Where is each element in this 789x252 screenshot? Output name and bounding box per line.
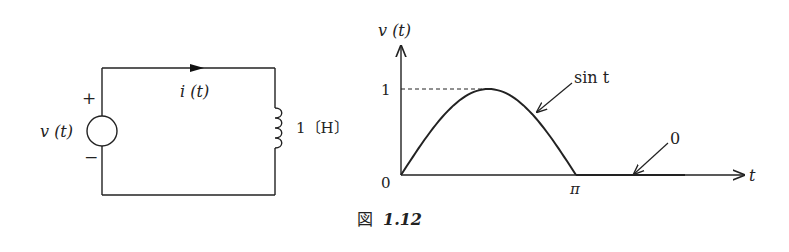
origin-label: 0: [381, 174, 391, 192]
current-label: i (t): [180, 82, 209, 101]
zero-annotation-arrow-icon: [634, 143, 668, 174]
x-tick-pi: π: [569, 180, 581, 198]
current-arrow-icon: [190, 64, 204, 72]
zero-annotation: 0: [670, 129, 680, 148]
figure-caption-prefix: 図: [357, 210, 373, 229]
sin-annotation-arrow-icon: [537, 83, 572, 112]
figure-canvas: + − v (t) i (t) 1〔H〕 v (t) t 1 0 π sin t…: [0, 0, 789, 252]
sin-annotation: sin t: [574, 68, 610, 87]
plus-sign: +: [82, 88, 96, 108]
inductor-icon: [275, 108, 282, 148]
figure-caption-number: 1.12: [383, 210, 422, 229]
minus-sign: −: [84, 147, 98, 167]
source-voltage-label: v (t): [40, 122, 73, 141]
inductance-label: 1〔H〕: [296, 119, 349, 137]
waveform-graph: [401, 46, 744, 175]
y-tick-1: 1: [381, 81, 391, 99]
y-axis-label: v (t): [378, 21, 411, 40]
voltage-source-icon: [87, 116, 117, 146]
x-axis-label: t: [749, 166, 756, 185]
